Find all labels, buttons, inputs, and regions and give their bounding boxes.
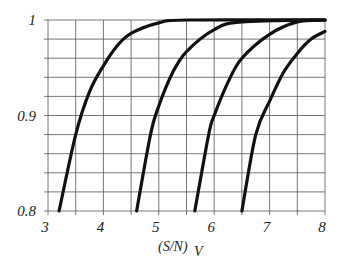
y-axis-tick-labels: 0.80.91: [17, 12, 36, 219]
y-tick-label: 0.9: [17, 108, 36, 124]
x-tick-label: 5: [152, 219, 160, 235]
grid: [44, 20, 325, 215]
x-axis-title: (S/N) V: [158, 239, 204, 259]
x-tick-label: 6: [207, 219, 215, 235]
x-tick-label: 4: [97, 219, 105, 235]
y-tick-label: 0.8: [17, 203, 36, 219]
x-tick-label: 7: [263, 219, 272, 235]
y-tick-label: 1: [29, 12, 37, 28]
x-axis-tick-labels: 345678: [40, 219, 326, 235]
chart: 0.80.91 345678 (S/N) V: [0, 0, 344, 270]
x-tick-label: 8: [318, 219, 326, 235]
x-tick-label: 3: [40, 219, 49, 235]
